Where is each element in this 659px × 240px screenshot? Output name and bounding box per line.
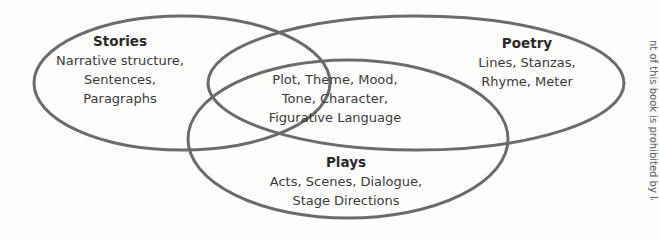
plays-item: Acts, Scenes, Dialogue, (270, 172, 422, 191)
stories-item: Sentences, (56, 70, 184, 89)
stories-label: Stories Narrative structure, Sentences, … (56, 32, 184, 108)
intersection-item: Plot, Theme, Mood, (269, 70, 402, 89)
plays-item: Stage Directions (270, 191, 422, 210)
poetry-item: Lines, Stanzas, (478, 53, 575, 72)
poetry-item: Rhyme, Meter (478, 72, 575, 91)
plays-label: Plays Acts, Scenes, Dialogue, Stage Dire… (270, 153, 422, 210)
intersection-label: Plot, Theme, Mood, Tone, Character, Figu… (269, 70, 402, 127)
stories-item: Paragraphs (56, 89, 184, 108)
stories-item: Narrative structure, (56, 51, 184, 70)
plays-title: Plays (270, 153, 422, 172)
copyright-side-note: nt of this book is prohibited by law (648, 40, 659, 200)
stories-title: Stories (56, 32, 184, 51)
poetry-label: Poetry Lines, Stanzas, Rhyme, Meter (478, 34, 575, 91)
poetry-title: Poetry (478, 34, 575, 53)
intersection-item: Figurative Language (269, 108, 402, 127)
intersection-item: Tone, Character, (269, 89, 402, 108)
